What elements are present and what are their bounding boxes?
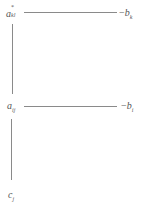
node-a-kl-star-scripts: *kl bbox=[11, 7, 19, 17]
node-b-k-subscript: k bbox=[130, 14, 133, 20]
node-a-ij: aij bbox=[7, 101, 15, 111]
node-c-j: cj bbox=[8, 190, 14, 200]
edge-a-kl-to-b-k bbox=[24, 12, 117, 13]
edge-a-kl-to-a-ij bbox=[12, 24, 13, 94]
node-a-kl-star: a*kl bbox=[6, 7, 19, 19]
node-a-kl-star-superscript: * bbox=[11, 4, 14, 10]
node-b-i-base: b bbox=[127, 100, 132, 111]
node-b-i: −bi bbox=[121, 101, 133, 111]
node-c-j-subscript: j bbox=[12, 196, 14, 202]
node-a-kl-star-subscript: kl bbox=[11, 12, 15, 18]
node-b-k: −bk bbox=[119, 8, 132, 18]
edge-a-ij-to-b-i bbox=[24, 106, 117, 107]
edge-a-ij-to-c-j bbox=[11, 119, 12, 180]
node-a-ij-subscript: ij bbox=[12, 107, 15, 113]
node-b-i-subscript: i bbox=[132, 107, 134, 113]
node-b-k-base: b bbox=[125, 7, 130, 18]
